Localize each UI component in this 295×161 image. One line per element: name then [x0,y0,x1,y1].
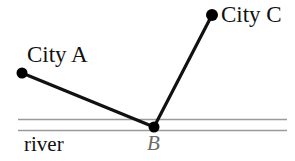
point-marker-city-c [206,9,218,21]
label-city-c: City C [221,3,282,26]
point-marker-city-a [17,68,28,79]
label-city-a: City A [27,43,88,66]
label-point-b: B [147,133,160,154]
label-river: river [24,134,64,155]
river-crossing-diagram: City A City C river B [0,0,295,161]
